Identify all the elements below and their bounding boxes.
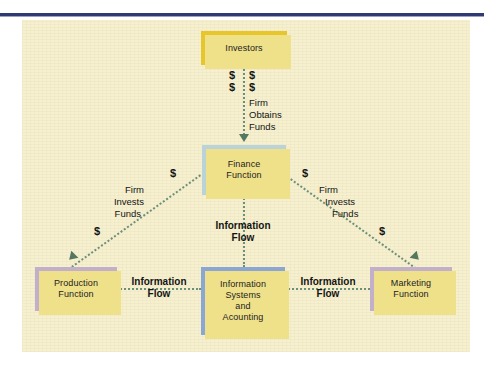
label-information-flow-center: Information Flow: [196, 220, 290, 244]
label-firm-invests-funds-right-line2: Invests: [325, 196, 355, 208]
connector-investors-to-finance: [243, 65, 245, 139]
label-firm-obtains-funds-line2: Obtains: [249, 109, 282, 121]
node-production-function[interactable]: Production Function: [35, 267, 117, 311]
top-rule-shadow: [0, 16, 484, 17]
node-investors-label: Investors: [225, 43, 262, 54]
money-symbol-investors-right-bottom: $: [249, 82, 255, 93]
node-isa-label-line1: Information: [220, 279, 266, 290]
node-finance-function[interactable]: Finance Function: [202, 145, 286, 195]
money-symbol-investors-left-top: $: [229, 70, 235, 81]
label-information-flow-right: Information Flow: [281, 276, 375, 300]
label-information-flow-right-line2: Flow: [281, 288, 375, 300]
node-isa-label-line2: Systems: [225, 290, 260, 301]
label-firm-invests-funds-left-line1: Firm: [104, 184, 144, 196]
label-firm-invests-funds-right-line3: Funds: [332, 208, 358, 220]
label-information-flow-left-line1: Information: [112, 276, 206, 288]
node-finance-label-line1: Finance: [228, 159, 261, 170]
label-information-flow-left-line2: Flow: [112, 288, 206, 300]
node-marketing-function[interactable]: Marketing Function: [370, 267, 452, 311]
label-firm-invests-funds-left-line2: Invests: [98, 196, 144, 208]
node-isa-label-line3: and: [235, 301, 250, 312]
money-symbol-production-upper: $: [170, 168, 176, 179]
node-information-systems-and-accounting[interactable]: Information Systems and Acounting: [201, 267, 285, 335]
label-firm-obtains-funds-line3: Funds: [249, 121, 275, 133]
node-marketing-label-line2: Function: [393, 289, 428, 300]
money-symbol-production-lower: $: [94, 226, 100, 237]
node-investors[interactable]: Investors: [201, 31, 287, 65]
label-information-flow-center-line2: Flow: [196, 232, 290, 244]
label-firm-invests-funds-right-line1: Firm: [319, 184, 338, 196]
node-finance-label-line2: Function: [226, 170, 261, 181]
label-information-flow-center-line1: Information: [196, 220, 290, 232]
money-symbol-marketing-lower: $: [379, 226, 385, 237]
money-symbol-investors-right-top: $: [249, 70, 255, 81]
label-information-flow-left: Information Flow: [112, 276, 206, 300]
diagram-canvas: Investors Finance Function Production Fu…: [0, 0, 484, 376]
node-isa-label-line4: Acounting: [223, 312, 264, 323]
label-information-flow-right-line1: Information: [281, 276, 375, 288]
money-symbol-marketing-upper: $: [302, 168, 308, 179]
label-firm-obtains-funds-line1: Firm: [249, 97, 268, 109]
node-production-label-line2: Function: [58, 289, 93, 300]
arrowhead-investors-to-finance: [239, 134, 249, 142]
money-symbol-investors-left-bottom: $: [229, 82, 235, 93]
node-production-label-line1: Production: [54, 278, 98, 289]
node-marketing-label-line1: Marketing: [391, 278, 431, 289]
label-firm-invests-funds-left-line3: Funds: [97, 208, 141, 220]
